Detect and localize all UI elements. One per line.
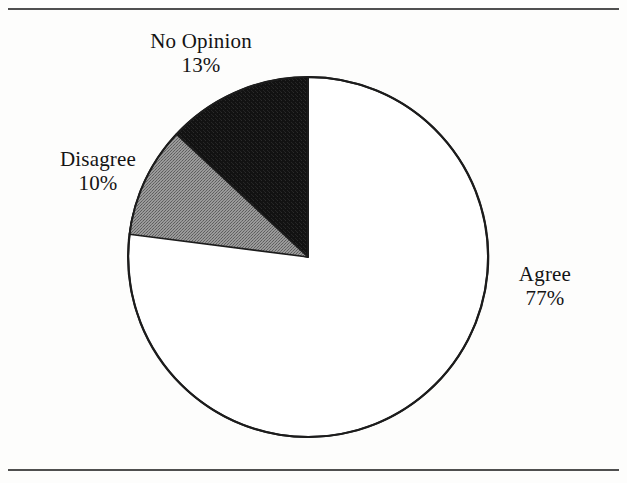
- pie-chart-svg: [0, 0, 627, 483]
- pie-label-no-opinion-percent: 13%: [118, 54, 284, 78]
- pie-label-no-opinion: No Opinion 13%: [118, 30, 284, 77]
- pie-label-agree: Agree 77%: [487, 263, 603, 310]
- pie-label-agree-percent: 77%: [487, 287, 603, 311]
- pie-label-disagree-name: Disagree: [22, 148, 174, 172]
- figure-rule-bottom: [8, 469, 619, 471]
- pie-label-agree-name: Agree: [487, 263, 603, 287]
- pie-label-no-opinion-name: No Opinion: [118, 30, 284, 54]
- figure-page: No Opinion 13% Disagree 10% Agree 77%: [0, 0, 627, 483]
- pie-chart: No Opinion 13% Disagree 10% Agree 77%: [0, 0, 627, 483]
- pie-label-disagree: Disagree 10%: [22, 148, 174, 195]
- pie-label-disagree-percent: 10%: [22, 172, 174, 196]
